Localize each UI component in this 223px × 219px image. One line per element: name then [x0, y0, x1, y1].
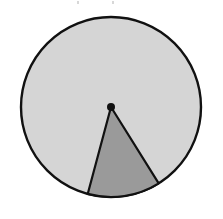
scan-artifact-speck: [77, 1, 79, 4]
figure-container: [0, 0, 223, 219]
circle-sector-diagram: [0, 0, 223, 219]
center-point-dot: [107, 103, 115, 111]
scan-artifact-speck: [112, 1, 114, 4]
